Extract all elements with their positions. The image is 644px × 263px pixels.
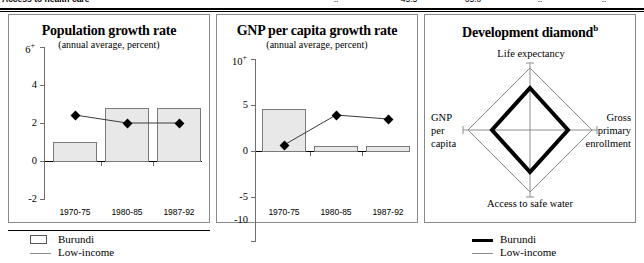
pop-xlabel-2: 1980-85 — [99, 207, 155, 217]
legend-left-label-low-income: Low-income — [58, 246, 114, 258]
table-cell-1: 45.5 — [392, 0, 426, 4]
table-row-label: Access to health care — [2, 0, 89, 4]
line-swatch-icon — [30, 253, 51, 254]
table-cell-0: .. — [324, 0, 348, 4]
panel-development-diamond: Development diamondb Life expectancy GNP… — [424, 14, 636, 223]
report-figure-sheet: Access to health care .. 45.5 65.0 .. ..… — [0, 0, 644, 263]
bar-swatch-icon — [30, 235, 47, 244]
panel-population-growth: Population growth rate (annual average, … — [8, 14, 210, 223]
diamond-plot — [425, 15, 637, 224]
thick-line-swatch-icon — [472, 239, 493, 242]
table-cell-3: .. — [528, 0, 552, 4]
table-cell-4: .. — [592, 0, 616, 4]
panel-gnp-growth: GNP per capita growth rate (annual avera… — [216, 14, 418, 223]
pop-xlabel-1: 1970-75 — [47, 207, 103, 217]
gnp-xlabel-1: 1970-75 — [256, 207, 312, 217]
gnp-xlabel-3: 1987-92 — [360, 207, 416, 217]
legend-right-label-burundi: Burundi — [500, 233, 536, 245]
table-bottom-rule-thin — [0, 11, 644, 12]
gnp-xlabel-2: 1980-85 — [308, 207, 364, 217]
legend-left-separator — [8, 230, 210, 231]
clipped-table-row: Access to health care .. 45.5 65.0 .. .. — [0, 0, 644, 8]
pop-xlabel-3: 1987-92 — [151, 207, 207, 217]
legend-left-label-burundi: Burundi — [58, 233, 94, 245]
table-bottom-rule-thick — [0, 8, 644, 10]
legend-right-label-low-income: Low-income — [500, 246, 556, 258]
table-cell-2: 65.0 — [456, 0, 490, 4]
gnp-ytick-m10 — [251, 241, 256, 242]
thin-line-swatch-icon — [472, 253, 493, 254]
